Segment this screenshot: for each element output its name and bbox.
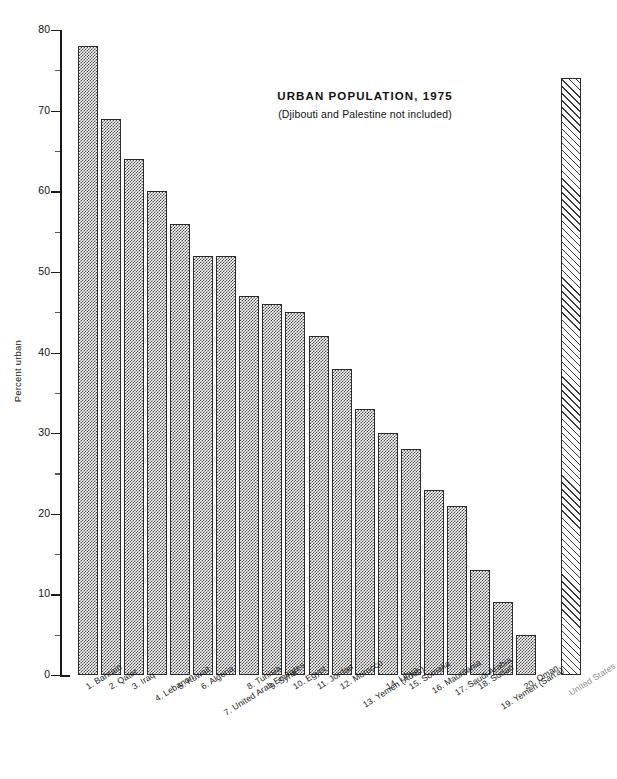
y-tick-major (51, 675, 60, 676)
bar (309, 336, 329, 675)
y-tick-major (51, 111, 60, 112)
y-tick-label: 60 (20, 184, 50, 196)
y-axis-tick-labels: 01020304050607080 (16, 30, 50, 675)
plot-area: 01020304050607080 1. Bahrain2. Qatar3. I… (60, 30, 585, 675)
y-tick-major (51, 191, 60, 192)
bar (447, 506, 467, 675)
y-tick-major (51, 433, 60, 434)
y-tick-label: 30 (20, 426, 50, 438)
bar (147, 191, 167, 675)
x-axis-tick-labels: 1. Bahrain2. Qatar3. Iraq4. Lebanon5. Ku… (60, 675, 585, 779)
bar (355, 409, 375, 675)
bar (332, 369, 352, 675)
bar (216, 256, 236, 675)
bar-series (60, 30, 585, 675)
bar (285, 312, 305, 675)
bar (78, 46, 98, 675)
y-tick-major (51, 272, 60, 273)
y-tick-label: 50 (20, 265, 50, 277)
bar (401, 449, 421, 675)
bar (124, 159, 144, 675)
y-tick-major (51, 353, 60, 354)
y-tick-label: 80 (20, 23, 50, 35)
bar (561, 78, 581, 675)
y-tick-major (51, 30, 60, 31)
y-tick-major (51, 594, 60, 595)
y-tick-major (51, 514, 60, 515)
bar (193, 256, 213, 675)
bar (424, 490, 444, 675)
y-tick-label: 0 (20, 668, 50, 680)
bar (101, 119, 121, 675)
bar (239, 296, 259, 675)
y-tick-label: 70 (20, 104, 50, 116)
y-tick-label: 40 (20, 346, 50, 358)
y-tick-label: 10 (20, 587, 50, 599)
bar (170, 224, 190, 676)
y-tick-label: 20 (20, 507, 50, 519)
bar (516, 635, 536, 675)
bar (262, 304, 282, 675)
bar (378, 433, 398, 675)
